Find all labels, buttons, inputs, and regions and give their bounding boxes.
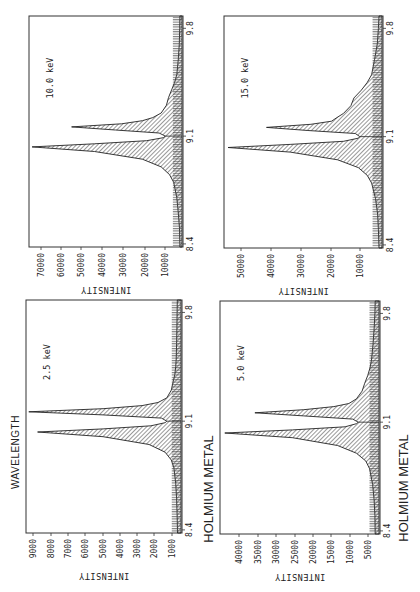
- y-tick-label: 20000: [141, 253, 150, 277]
- spectrum-panel-p15: 8.49.19.81000020000300004000050000INTENS…: [224, 16, 395, 296]
- holmium-metal-label-left: HOLMIUM METAL: [201, 435, 216, 542]
- y-tick-label: 35000: [254, 540, 263, 564]
- wavelength-axis-title: WAVELENGTH: [10, 415, 21, 489]
- background-band: [173, 17, 182, 246]
- energy-label: 5.0 keV: [236, 345, 246, 381]
- intensity-axis-title: INTENSITY: [275, 572, 326, 582]
- y-tick-label: 9000: [29, 539, 38, 558]
- y-tick-label: 10000: [346, 540, 355, 564]
- y-tick-label: 10000: [356, 254, 365, 278]
- x-tick-label: 9.8: [383, 306, 392, 321]
- spectrum-area: [32, 16, 182, 247]
- y-tick-label: 20000: [309, 540, 318, 564]
- y-tick-label: 6000: [81, 539, 90, 558]
- y-tick-label: 5000: [99, 539, 108, 558]
- y-tick-label: 5000: [364, 540, 373, 559]
- x-tick-label: 9.8: [386, 21, 395, 36]
- intensity-axis-title: INTENSITY: [81, 285, 132, 295]
- y-tick-label: 30000: [119, 253, 128, 277]
- background-band: [172, 301, 181, 532]
- y-tick-label: 4000: [116, 539, 125, 558]
- background-band: [373, 17, 382, 247]
- x-tick-label: 9.1: [383, 415, 392, 430]
- y-tick-label: 2000: [150, 539, 159, 558]
- y-tick-label: 40000: [267, 254, 276, 278]
- energy-label: 2.5 keV: [42, 344, 52, 380]
- x-tick-label: 9.1: [386, 129, 395, 144]
- y-tick-label: 60000: [57, 253, 66, 277]
- background-band: [370, 302, 379, 533]
- y-tick-label: 30000: [272, 540, 281, 564]
- energy-label: 10.0 keV: [45, 58, 55, 99]
- spectrum-panel-p5: 8.49.19.85000100001500020000250003000035…: [220, 301, 392, 582]
- x-tick-label: 8.4: [386, 238, 395, 253]
- x-tick-label: 8.4: [186, 237, 195, 252]
- y-tick-label: 3000: [133, 539, 142, 558]
- y-tick-label: 30000: [297, 254, 306, 278]
- y-tick-label: 70000: [37, 253, 46, 277]
- spectrum-panel-p25: 8.49.19.81000200030004000500060007000800…: [26, 300, 194, 581]
- intensity-axis-title: INTENSITY: [278, 286, 329, 296]
- y-tick-label: 25000: [291, 540, 300, 564]
- y-tick-label: 1000: [168, 539, 177, 558]
- spectrum-area: [225, 301, 379, 534]
- spectrum-area: [228, 16, 382, 248]
- spectrum-area: [29, 300, 181, 533]
- x-tick-label: 9.1: [185, 414, 194, 429]
- intensity-axis-title: INTENSITY: [79, 571, 130, 581]
- y-tick-label: 7000: [64, 539, 73, 558]
- holmium-metal-label-right: HOLMIUM METAL: [396, 434, 411, 541]
- x-tick-label: 9.1: [186, 129, 195, 144]
- x-tick-label: 8.4: [383, 523, 392, 538]
- spectrum-panel-p10: 8.49.19.81000020000300004000050000600007…: [29, 16, 195, 295]
- energy-label: 15.0 keV: [240, 58, 250, 99]
- x-tick-label: 9.8: [186, 21, 195, 36]
- y-tick-label: 40000: [98, 253, 107, 277]
- y-tick-label: 50000: [237, 254, 246, 278]
- x-tick-label: 8.4: [185, 522, 194, 537]
- holmium-spectra-figure: 8.49.19.81000020000300004000050000600007…: [0, 0, 420, 592]
- y-tick-label: 8000: [47, 539, 56, 558]
- y-tick-label: 10000: [161, 253, 170, 277]
- x-tick-label: 9.8: [185, 305, 194, 320]
- y-tick-label: 20000: [327, 254, 336, 278]
- y-tick-label: 50000: [77, 253, 86, 277]
- y-tick-label: 15000: [327, 540, 336, 564]
- y-tick-label: 40000: [235, 540, 244, 564]
